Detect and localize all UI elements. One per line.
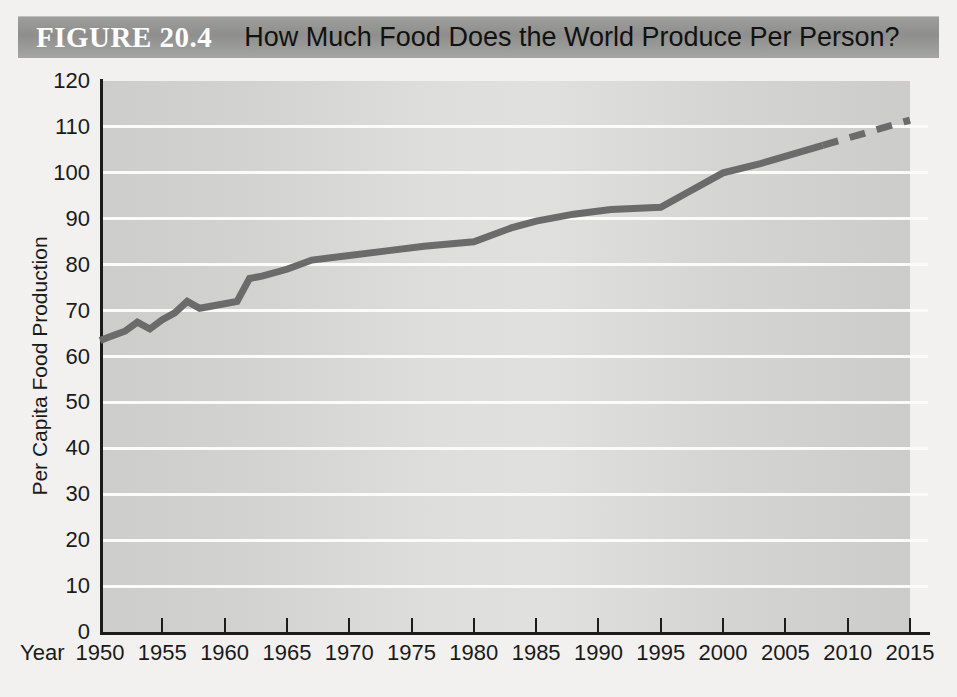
chart-plot-area: 0102030405060708090100110120 19501955196… <box>18 62 939 682</box>
figure-number-label: FIGURE 20.4 <box>36 21 212 54</box>
figure-title-label: How Much Food Does the World Produce Per… <box>244 22 899 53</box>
series-line-observed <box>100 145 823 340</box>
data-series-svg <box>18 62 939 682</box>
figure-container: FIGURE 20.4 How Much Food Does the World… <box>0 0 957 697</box>
series-line-projected <box>823 120 910 145</box>
figure-title-bar: FIGURE 20.4 How Much Food Does the World… <box>18 16 939 58</box>
